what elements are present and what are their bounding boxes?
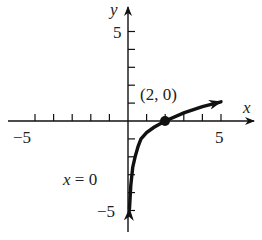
y-tick-label-5: 5 bbox=[113, 23, 122, 42]
x-tick-label-5: 5 bbox=[215, 128, 224, 147]
x-tick-label-neg5: −5 bbox=[13, 128, 31, 147]
x-axis-label: x bbox=[242, 98, 251, 117]
asymptote-label: x = 0 bbox=[62, 170, 97, 189]
point-label: (2, 0) bbox=[140, 85, 177, 104]
y-axis-label: y bbox=[108, 0, 118, 19]
log-graph: y 5 x −5 5 (2, 0) x = 0 −5 bbox=[0, 0, 262, 240]
log-curve bbox=[130, 102, 222, 209]
point-marker bbox=[160, 116, 170, 126]
y-tick-label-neg5: −5 bbox=[97, 202, 115, 221]
